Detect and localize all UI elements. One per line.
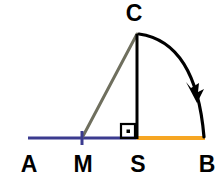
point-label-S: S bbox=[130, 151, 145, 177]
arc-C-to-B bbox=[139, 34, 204, 137]
point-label-C: C bbox=[126, 0, 143, 26]
segment-M-C-hypotenuse bbox=[82, 34, 137, 138]
point-label-A: A bbox=[21, 151, 38, 177]
geometry-figure: A M S B C bbox=[0, 0, 223, 179]
point-label-M: M bbox=[73, 151, 92, 177]
point-label-B: B bbox=[199, 151, 216, 177]
figure-canvas: A M S B C bbox=[0, 0, 223, 179]
right-angle-dot-icon bbox=[127, 130, 131, 134]
